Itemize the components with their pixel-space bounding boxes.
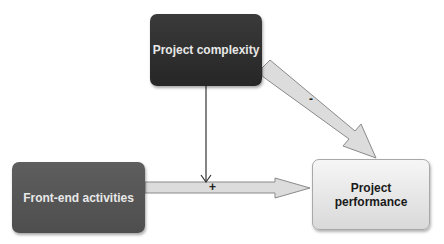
arrow-frontend-to-performance [145,178,310,198]
negative-sign: - [309,92,313,106]
node-label: Project complexity [153,43,260,57]
node-project-performance: Project performance [312,159,430,230]
node-front-end-activities: Front-end activities [12,162,145,233]
positive-sign: + [209,180,216,194]
arrow-complexity-to-performance [262,60,376,158]
node-project-complexity: Project complexity [150,14,262,86]
node-label: Project performance [313,181,429,209]
node-label: Front-end activities [23,191,134,205]
